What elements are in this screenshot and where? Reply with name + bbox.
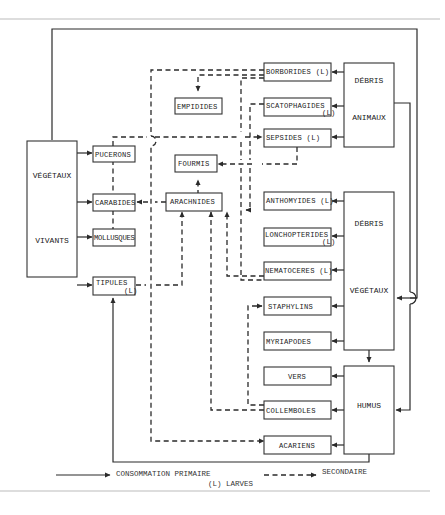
svg-text:DÉBRIS: DÉBRIS [355, 219, 384, 228]
node-vers: VERS [264, 367, 331, 385]
svg-text:ANIMAUX: ANIMAUX [352, 113, 386, 122]
svg-text:VIVANTS: VIVANTS [35, 236, 69, 245]
legend-primary-label: CONSOMMATION PRIMAIRE [116, 470, 211, 478]
svg-text:COLLEMBOLES: COLLEMBOLES [266, 407, 316, 415]
svg-text:SEPSIDES (L): SEPSIDES (L) [266, 134, 320, 142]
node-carabides: CARABIDES [93, 194, 136, 211]
legend-secondary-label: SECONDAIRE [322, 468, 368, 476]
node-debris-vegetaux: DÉBRIS VÉGÉTAUX [344, 192, 394, 350]
node-myriapodes: MYRIAPODES [264, 332, 331, 350]
node-fourmis: FOURMIS [175, 155, 217, 172]
svg-text:EMPIDIDES: EMPIDIDES [177, 103, 218, 111]
svg-text:MYRIAPODES: MYRIAPODES [266, 338, 311, 346]
svg-text:VÉGÉTAUX: VÉGÉTAUX [350, 286, 389, 295]
legend: CONSOMMATION PRIMAIRE (L) LARVES SECONDA… [56, 468, 368, 488]
svg-text:DÉBRIS: DÉBRIS [355, 76, 384, 85]
node-debris-animaux: DÉBRIS ANIMAUX [344, 63, 394, 147]
svg-text:CARABIDES: CARABIDES [95, 199, 136, 207]
node-humus: HUMUS [344, 366, 394, 454]
svg-text:(L): (L) [124, 287, 138, 295]
svg-text:TIPULES: TIPULES [96, 279, 128, 287]
node-lonchopterides: LONCHOPTERIDES (L) [264, 228, 336, 246]
node-vegetaux-vivants: VÉGÉTAUX VIVANTS [27, 141, 77, 277]
node-sepsides: SEPSIDES (L) [264, 129, 331, 147]
svg-text:NEMATOCERES (L): NEMATOCERES (L) [265, 267, 333, 275]
node-pucerons: PUCERONS [93, 146, 135, 162]
node-mollusques: MOLLUSQUES [93, 229, 135, 246]
svg-text:FOURMIS: FOURMIS [178, 160, 210, 168]
svg-text:SCATOPHAGIDES: SCATOPHAGIDES [266, 102, 325, 110]
node-borborides: BORBORIDES (L) [264, 63, 331, 81]
svg-text:(L): (L) [322, 109, 336, 117]
svg-text:VÉGÉTAUX: VÉGÉTAUX [33, 171, 72, 180]
svg-text:HUMUS: HUMUS [357, 401, 381, 410]
svg-text:VERS: VERS [288, 373, 306, 381]
node-arachnides: ARACHNIDES [166, 193, 222, 211]
svg-text:ARACHNIDES: ARACHNIDES [170, 198, 215, 206]
node-empidides: EMPIDIDES [175, 98, 222, 114]
node-scatophagides: SCATOPHAGIDES (L) [264, 98, 336, 117]
food-web-diagram: VÉGÉTAUX VIVANTS PUCERONS CARABIDES MOLL… [0, 0, 445, 515]
svg-text:PUCERONS: PUCERONS [95, 151, 131, 159]
svg-text:LONCHOPTERIDES: LONCHOPTERIDES [265, 231, 328, 239]
svg-text:ACARIENS: ACARIENS [279, 442, 315, 450]
node-collemboles: COLLEMBOLES [264, 401, 331, 419]
svg-text:MOLLUSQUES: MOLLUSQUES [94, 234, 135, 242]
node-nematoceres: NEMATOCERES (L) [264, 262, 333, 280]
node-tipules: TIPULES (L) [93, 277, 138, 295]
node-acariens: ACARIENS [264, 436, 331, 454]
legend-larvae-note: (L) LARVES [208, 480, 254, 488]
node-anthomyides: ANTHOMYIDES (L) [264, 192, 334, 210]
svg-text:BORBORIDES (L): BORBORIDES (L) [266, 68, 329, 76]
svg-text:(L): (L) [322, 238, 336, 246]
svg-text:ANTHOMYIDES (L): ANTHOMYIDES (L) [266, 197, 334, 205]
node-staphylins: STAPHYLINS [264, 297, 331, 315]
svg-text:STAPHYLINS: STAPHYLINS [268, 303, 313, 311]
